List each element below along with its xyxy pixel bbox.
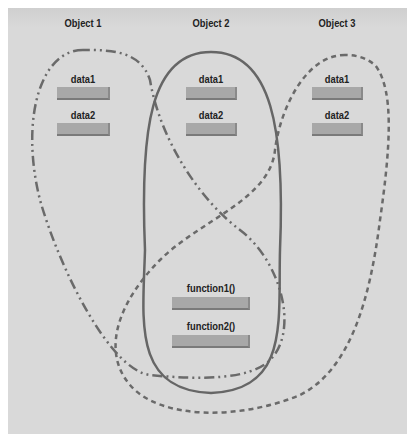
- object1-field1-label: data1: [53, 73, 113, 85]
- object2-field2-label: data2: [181, 109, 241, 121]
- function2-label: function2(): [173, 320, 250, 332]
- object1-field2-bar: [57, 123, 110, 136]
- object3-field1-bar: [312, 87, 363, 100]
- object3-title: Object 3: [307, 17, 367, 29]
- object1-field1-bar: [57, 87, 110, 100]
- object2-title: Object 2: [181, 17, 241, 29]
- object-outlines: [0, 0, 412, 439]
- object3-field1-label: data1: [307, 73, 367, 85]
- object3-field2-bar: [312, 123, 363, 136]
- function1-bar: [172, 297, 250, 310]
- object2-field1-bar: [186, 87, 237, 100]
- function2-bar: [172, 335, 250, 348]
- object1-field2-label: data2: [53, 109, 113, 121]
- object2-field2-bar: [186, 123, 237, 136]
- object2-field1-label: data1: [181, 73, 241, 85]
- object1-title: Object 1: [53, 17, 113, 29]
- object3-field2-label: data2: [307, 109, 367, 121]
- function1-label: function1(): [173, 282, 250, 294]
